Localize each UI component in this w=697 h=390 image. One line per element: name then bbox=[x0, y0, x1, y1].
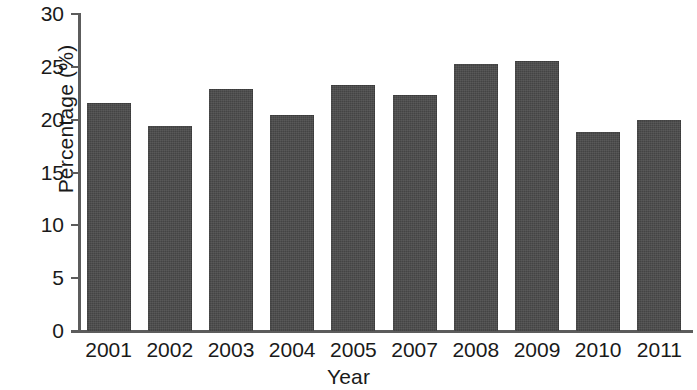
bar bbox=[454, 64, 498, 331]
bar bbox=[393, 95, 437, 331]
bar bbox=[515, 61, 559, 332]
y-axis-tick-mark bbox=[71, 119, 79, 121]
bar bbox=[87, 103, 131, 331]
y-axis-tick-label: 5 bbox=[22, 267, 64, 288]
x-axis-title: Year bbox=[0, 365, 697, 389]
y-axis-tick-label: 25 bbox=[22, 56, 64, 77]
x-axis-tick-label: 2004 bbox=[262, 339, 323, 360]
x-axis-tick-label: 2008 bbox=[445, 339, 506, 360]
y-axis-tick-label: 30 bbox=[22, 3, 64, 24]
y-axis-tick-label: 15 bbox=[22, 162, 64, 183]
x-axis-tick-label: 2003 bbox=[200, 339, 261, 360]
y-axis-tick-mark bbox=[71, 13, 79, 15]
plot-area bbox=[78, 14, 690, 331]
bar bbox=[209, 89, 253, 331]
x-axis-tick-label: 2010 bbox=[568, 339, 629, 360]
y-axis-tick-label: 10 bbox=[22, 214, 64, 235]
y-axis-tick-label: 0 bbox=[22, 320, 64, 341]
y-axis-tick-mark bbox=[71, 330, 79, 332]
y-axis-tick-mark bbox=[71, 224, 79, 226]
x-axis-tick-label: 2007 bbox=[384, 339, 445, 360]
y-axis-tick-mark bbox=[71, 172, 79, 174]
x-axis-tick-label: 2011 bbox=[629, 339, 690, 360]
y-axis-tick-mark bbox=[71, 277, 79, 279]
y-axis-tick-mark bbox=[71, 66, 79, 68]
bar-chart: Percentage (%) 051015202530 Year 2001200… bbox=[0, 0, 697, 390]
y-axis-tick-labels: 051015202530 bbox=[14, 0, 64, 390]
bar bbox=[148, 126, 192, 331]
bar bbox=[576, 132, 620, 331]
x-axis-tick-label: 2001 bbox=[78, 339, 139, 360]
x-axis-tick-label: 2009 bbox=[506, 339, 567, 360]
x-axis-tick-label: 2005 bbox=[323, 339, 384, 360]
bar bbox=[270, 115, 314, 331]
bar bbox=[331, 85, 375, 331]
bar bbox=[637, 120, 681, 331]
x-axis-tick-label: 2002 bbox=[139, 339, 200, 360]
y-axis-tick-label: 20 bbox=[22, 109, 64, 130]
